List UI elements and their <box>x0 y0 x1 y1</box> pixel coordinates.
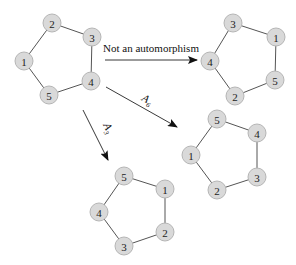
node-3: 3 <box>248 168 266 186</box>
node-label: 4 <box>254 128 260 140</box>
not-automorphism-arrow: Not an automorphism <box>103 42 199 60</box>
graph-A3-result: 51234 <box>90 167 174 255</box>
node-label: 5 <box>214 114 220 126</box>
node-4: 4 <box>201 52 219 70</box>
a6-arrow: A6 <box>106 87 177 127</box>
node-label: 3 <box>254 172 260 184</box>
node-label: 2 <box>214 185 220 197</box>
node-label: 5 <box>121 171 127 183</box>
node-2: 2 <box>226 87 244 105</box>
node-4: 4 <box>90 203 108 221</box>
arrow-line <box>106 87 177 127</box>
node-label: 4 <box>96 207 102 219</box>
node-5: 5 <box>208 110 226 128</box>
node-label: 3 <box>121 241 127 253</box>
node-5: 5 <box>266 71 284 89</box>
node-label: 5 <box>46 90 52 102</box>
node-3: 3 <box>115 237 133 255</box>
pentagon-automorphism-diagram: Not an automorphismA6A3 1234531524543215… <box>0 0 296 265</box>
a3-arrow: A3 <box>83 110 117 160</box>
node-label: 1 <box>188 150 194 162</box>
node-label: 4 <box>88 76 94 88</box>
arrow-label: A3 <box>98 120 117 137</box>
node-2: 2 <box>208 181 226 199</box>
arrow-label: Not an automorphism <box>103 42 199 54</box>
node-label: 2 <box>162 227 168 239</box>
node-4: 4 <box>248 124 266 142</box>
node-label: 1 <box>273 32 279 44</box>
graph-original: 12345 <box>15 14 101 104</box>
node-2: 2 <box>43 14 61 32</box>
node-3: 3 <box>83 28 101 46</box>
node-label: 1 <box>21 56 27 68</box>
node-label: 4 <box>207 56 213 68</box>
arrows: Not an automorphismA6A3 <box>83 42 199 160</box>
node-5: 5 <box>115 167 133 185</box>
node-label: 2 <box>232 91 238 103</box>
node-label: 5 <box>272 75 278 87</box>
node-4: 4 <box>82 72 100 90</box>
graph-not-automorphism: 31524 <box>201 14 285 105</box>
node-1: 1 <box>182 146 200 164</box>
node-label: 3 <box>230 18 236 30</box>
node-3: 3 <box>224 14 242 32</box>
node-label: 2 <box>49 18 55 30</box>
node-2: 2 <box>156 223 174 241</box>
node-label: 1 <box>162 184 168 196</box>
node-1: 1 <box>156 180 174 198</box>
node-5: 5 <box>40 86 58 104</box>
graph-A6-result: 54321 <box>182 110 266 199</box>
node-label: 3 <box>89 32 95 44</box>
node-1: 1 <box>267 28 285 46</box>
node-1: 1 <box>15 52 33 70</box>
